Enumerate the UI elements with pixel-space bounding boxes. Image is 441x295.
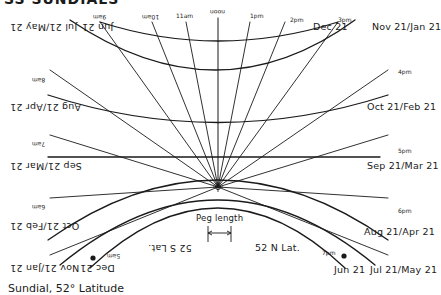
diagram-caption: Sundial, 52° Latitude xyxy=(8,282,124,295)
date-label-jul-may: Jul 21/May 21 xyxy=(370,265,437,275)
south-date-label-aug-apr: Aug 21/Apr 21 xyxy=(10,102,81,112)
south-time-label-7am: 7am xyxy=(32,140,45,147)
date-label-jun21: Jun 21 xyxy=(334,265,365,275)
south-time-label-8am: 8am xyxy=(32,76,45,83)
time-label-1pm: 1pm xyxy=(250,13,263,20)
south-date-label-nov-jan: Nov 21/Jan 21 xyxy=(10,263,79,273)
south-latitude-label: 52 S Lat. xyxy=(148,243,192,253)
time-label-7pm: 7pm xyxy=(322,250,335,257)
date-label-aug-apr: Aug 21/Apr 21 xyxy=(364,227,435,237)
time-label-3pm: 3pm xyxy=(338,17,351,24)
south-time-label-5am: 5am xyxy=(107,252,120,259)
time-label-11am: 11am xyxy=(176,13,193,20)
north-latitude-label: 52 N Lat. xyxy=(255,243,300,253)
time-label-2pm: 2pm xyxy=(290,17,303,24)
date-label-oct-feb: Oct 21/Feb 21 xyxy=(367,102,436,112)
south-date-label-oct-feb: Oct 21/Feb 21 xyxy=(10,221,79,231)
south-date-label-jun21: Jun 21 xyxy=(82,22,113,32)
south-date-label-dec21: Dec 21 xyxy=(80,263,115,273)
south-date-label-jul-may: Jul 21/May 21 xyxy=(10,22,77,32)
time-label-6pm: 6pm xyxy=(398,208,411,215)
south-time-label-6am: 6am xyxy=(32,203,45,210)
south-date-label-sep-mar: Sep 21/Mar 21 xyxy=(10,161,82,171)
date-label-sep-mar: Sep 21/Mar 21 xyxy=(367,161,439,171)
south-time-label-10am: 10am xyxy=(142,13,159,20)
time-label-noon: noon xyxy=(210,8,225,15)
peg-length-label: Peg length xyxy=(196,214,243,223)
time-label-5pm: 5pm xyxy=(398,148,411,155)
time-label-4pm: 4pm xyxy=(398,69,411,76)
date-label-nov-jan: Nov 21/Jan 21 xyxy=(372,22,441,32)
south-time-label-9am: 9am xyxy=(93,13,106,20)
